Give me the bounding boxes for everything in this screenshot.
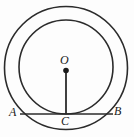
label-point-c: C: [61, 115, 69, 127]
label-center-o: O: [60, 54, 69, 66]
label-point-a: A: [9, 106, 16, 118]
geometry-diagram: O A B C: [0, 0, 134, 137]
label-point-b: B: [114, 105, 121, 117]
center-point-o-dot: [63, 68, 69, 74]
